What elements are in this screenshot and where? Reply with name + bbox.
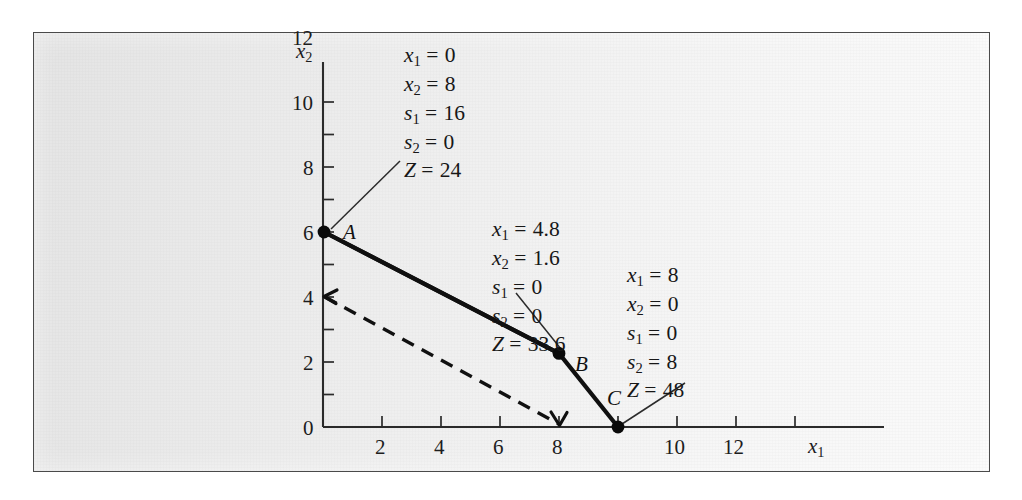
annotation-block-c: x1 = 8 x2 = 0 s1 = 0 s2 = 8 Z = 48: [627, 262, 684, 406]
annotation-a-var-1: x: [404, 72, 414, 96]
y-axis-title-sub: 2: [305, 49, 312, 65]
annotation-b-line-0: x1 = 4.8: [492, 216, 565, 245]
annotation-a-val-1: 8: [445, 72, 456, 96]
y-tick-label-4: 4: [303, 288, 314, 309]
annotation-b-eq-4: =: [504, 332, 527, 356]
annotation-c-val-4: 48: [663, 378, 685, 402]
annotation-block-b: x1 = 4.8 x2 = 1.6 s1 = 0 s2 = 0 Z = 33.6: [492, 216, 565, 360]
annotation-c-var-4: Z: [627, 378, 639, 402]
annotation-b-eq-3: =: [508, 304, 531, 328]
annotation-b-line-1: x2 = 1.6: [492, 245, 565, 274]
x-tick-label-6: 6: [493, 437, 504, 458]
annotation-b-var-1: x: [492, 246, 502, 270]
annotation-c-eq-0: =: [644, 263, 667, 287]
annotation-c-val-1: 0: [668, 292, 679, 316]
vertex-label-b: B: [575, 354, 588, 375]
figure-page: 0 2 4 6 8 10 12 2 4 6 8 10 12 x2 x1 A B …: [0, 0, 1022, 500]
y-tick-label-0: 0: [303, 418, 314, 439]
vertex-label-c: C: [607, 388, 621, 409]
annotation-b-val-4: 33.6: [528, 332, 566, 356]
vertex-dot-a: [318, 226, 331, 239]
y-tick-label-8: 8: [303, 158, 314, 179]
annotation-b-var-4: Z: [492, 332, 504, 356]
y-tick-label-6: 6: [303, 223, 314, 244]
annotation-c-val-2: 0: [667, 321, 678, 345]
annotation-b-sub-1: 2: [502, 256, 509, 272]
annotation-b-eq-0: =: [509, 217, 532, 241]
leader-line-vertex-a: [331, 161, 400, 229]
annotation-c-eq-1: =: [644, 292, 667, 316]
annotation-a-line-0: x1 = 0: [404, 42, 465, 71]
x-axis-title-sub: 1: [817, 444, 824, 460]
y-tick-label-2: 2: [303, 353, 314, 374]
annotation-a-sub-2: 1: [412, 111, 419, 127]
annotation-c-line-3: s2 = 8: [627, 349, 684, 378]
annotation-c-sub-3: 2: [635, 360, 642, 376]
annotation-a-eq-0: =: [421, 43, 444, 67]
annotation-a-val-0: 0: [445, 43, 456, 67]
annotation-a-sub-1: 2: [414, 82, 421, 98]
annotation-b-val-1: 1.6: [533, 246, 560, 270]
x-axis-ticks: [382, 416, 795, 427]
annotation-a-val-2: 16: [444, 101, 466, 125]
annotation-c-val-0: 8: [668, 263, 679, 287]
y-axis-title-text: x: [296, 39, 305, 63]
annotation-b-val-3: 0: [532, 304, 543, 328]
annotation-b-line-2: s1 = 0: [492, 274, 565, 303]
annotation-c-line-2: s1 = 0: [627, 320, 684, 349]
y-axis-title: x2: [296, 41, 312, 64]
annotation-a-eq-1: =: [421, 72, 444, 96]
annotation-a-line-3: s2 = 0: [404, 129, 465, 158]
x-tick-label-10: 10: [664, 437, 685, 458]
annotation-b-sub-0: 1: [502, 227, 509, 243]
annotation-a-line-1: x2 = 8: [404, 71, 465, 100]
annotation-c-val-3: 8: [667, 350, 678, 374]
annotation-a-eq-4: =: [416, 158, 439, 182]
annotation-a-sub-0: 1: [414, 53, 421, 69]
annotation-a-eq-3: =: [420, 130, 443, 154]
annotation-b-val-2: 0: [532, 275, 543, 299]
annotation-c-line-0: x1 = 8: [627, 262, 684, 291]
x-tick-label-4: 4: [434, 437, 445, 458]
annotation-b-eq-2: =: [508, 275, 531, 299]
annotation-c-var-1: x: [627, 292, 637, 316]
annotation-c-sub-2: 1: [635, 331, 642, 347]
annotation-b-line-3: s2 = 0: [492, 303, 565, 332]
annotation-a-val-3: 0: [444, 130, 455, 154]
annotation-a-eq-2: =: [420, 101, 443, 125]
annotation-a-var-4: Z: [404, 158, 416, 182]
annotation-a-val-4: 24: [440, 158, 462, 182]
annotation-b-val-0: 4.8: [533, 217, 560, 241]
x-tick-label-8: 8: [552, 437, 563, 458]
vertex-label-a: A: [343, 222, 356, 243]
x-axis-title-text: x: [808, 434, 817, 458]
x-axis-title: x1: [808, 436, 824, 459]
annotation-b-sub-3: 2: [500, 314, 507, 330]
annotation-c-line-1: x2 = 0: [627, 291, 684, 320]
annotation-b-line-4: Z = 33.6: [492, 331, 565, 360]
annotation-c-eq-2: =: [643, 321, 666, 345]
annotation-a-line-4: Z = 24: [404, 157, 465, 186]
annotation-c-sub-1: 2: [637, 302, 644, 318]
annotation-b-var-0: x: [492, 217, 502, 241]
annotation-c-eq-4: =: [639, 378, 662, 402]
annotation-b-sub-2: 1: [500, 285, 507, 301]
vertex-dot-c: [612, 421, 625, 434]
x-tick-label-2: 2: [375, 437, 386, 458]
y-tick-label-10: 10: [292, 93, 313, 114]
annotation-block-a: x1 = 0 x2 = 8 s1 = 16 s2 = 0 Z = 24: [404, 42, 465, 186]
annotation-b-eq-1: =: [509, 246, 532, 270]
y-axis-ticks: [323, 102, 334, 427]
annotation-c-var-0: x: [627, 263, 637, 287]
annotation-a-var-0: x: [404, 43, 414, 67]
annotation-a-line-2: s1 = 16: [404, 100, 465, 129]
annotation-c-eq-3: =: [643, 350, 666, 374]
annotation-c-line-4: Z = 48: [627, 377, 684, 406]
x-tick-label-12: 12: [723, 437, 744, 458]
annotation-a-sub-3: 2: [412, 140, 419, 156]
constraint-line-solid-path-2: [324, 232, 618, 427]
annotation-c-sub-0: 1: [637, 273, 644, 289]
